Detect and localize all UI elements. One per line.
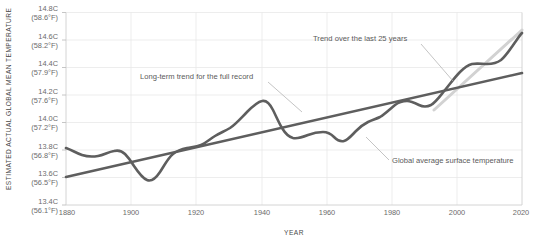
y-axis-title: ESTIMATED ACTUAL GLOBAL MEAN TEMPERATURE [5,7,12,190]
xtick-label-1960: 1960 [319,208,335,217]
ytick-label-13-4-c: 13.4C [38,197,58,206]
gridlines-group [66,13,522,178]
xtick-label-2000: 2000 [449,208,465,217]
annotation-surface-temperature-label: Global average surface temperature [392,156,514,165]
vertical-gridlines-group [131,13,457,206]
ytick-label-14-0-c: 14.0C [38,114,58,123]
temperature-chart: 14.8C (58.6°F) 14.6C (58.2°F) 14.4C (57.… [0,0,550,244]
ytick-label-14-6-c: 14.6C [38,32,58,41]
y-tick-labels: 14.8C (58.6°F) 14.6C (58.2°F) 14.4C (57.… [31,4,58,215]
annotation-recent-trend-leader [421,44,453,81]
annotation-surface-temperature-leader [366,137,389,160]
annotation-recent-trend-label: Trend over the last 25 years [313,34,407,43]
xtick-label-1980: 1980 [384,208,400,217]
ytick-label-14-4-c: 14.4C [38,59,58,68]
xtick-label-1920: 1920 [188,208,204,217]
annotation-long-term-trend-label: Long-term trend for the full record [140,72,253,81]
ytick-label-14-4-f: (57.9°F) [31,68,58,77]
annotation-surface-temperature: Global average surface temperature [366,137,514,165]
x-axis-title: YEAR [284,229,304,236]
x-tick-labels: 1880 1900 1920 1940 1960 1980 2000 2020 [59,208,529,217]
annotation-long-term-trend: Long-term trend for the full record [140,72,302,112]
xtick-label-1880: 1880 [59,208,75,217]
ytick-label-14-8-c: 14.8C [38,4,58,13]
ytick-label-14-0-f: (57.2°F) [31,123,58,132]
ytick-label-13-4-f: (56.1°F) [31,206,58,215]
ytick-label-13-8-c: 13.8C [38,142,58,151]
ytick-label-13-8-f: (56.8°F) [31,151,58,160]
ytick-label-13-6-c: 13.6C [38,169,58,178]
ytick-label-14-8-f: (58.6°F) [31,13,58,22]
chart-canvas: 14.8C (58.6°F) 14.6C (58.2°F) 14.4C (57.… [0,0,550,244]
axes-group [66,13,522,206]
ytick-label-14-2-c: 14.2C [38,87,58,96]
ytick-label-14-6-f: (58.2°F) [31,41,58,50]
annotation-recent-trend: Trend over the last 25 years [313,34,453,81]
xtick-label-1900: 1900 [123,208,139,217]
xtick-label-1940: 1940 [254,208,270,217]
xtick-label-2020: 2020 [513,208,529,217]
ytick-label-14-2-f: (57.6°F) [31,96,58,105]
trend-line-recent-25-years [434,30,522,110]
ytick-label-13-6-f: (56.5°F) [31,178,58,187]
